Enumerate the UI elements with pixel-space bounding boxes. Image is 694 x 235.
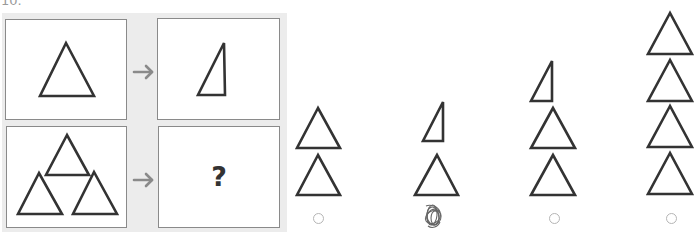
option-3[interactable] <box>526 56 580 228</box>
stimulus-cell-input-1 <box>5 19 127 120</box>
option-4-radio[interactable] <box>666 213 677 224</box>
stimulus-cell-input-2 <box>6 126 127 228</box>
option-1-radio[interactable] <box>313 213 324 224</box>
question-number: 10. <box>1 0 22 8</box>
option-4[interactable] <box>643 8 694 228</box>
missing-answer-mark: ? <box>158 126 280 228</box>
stimulus-cell-output-1 <box>157 18 280 120</box>
option-1[interactable] <box>292 100 346 228</box>
option-3-radio[interactable] <box>549 213 560 224</box>
option-2[interactable] <box>410 96 464 232</box>
